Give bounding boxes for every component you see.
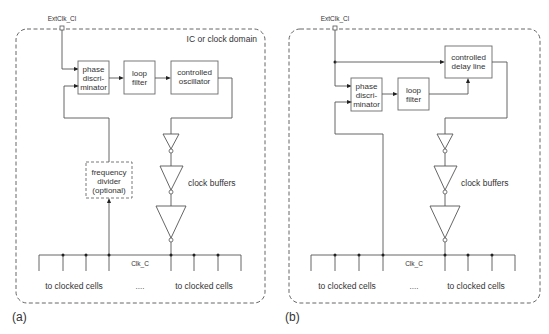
arrow-icon (166, 76, 171, 80)
arrow-icon (393, 92, 398, 96)
buffer-2-icon (434, 166, 457, 190)
caption-a: (a) (12, 310, 27, 324)
loop-filter-block: loop filter (124, 61, 155, 94)
bus-label: Clk_C (405, 260, 423, 268)
svg-text:loop: loop (406, 86, 422, 95)
svg-text:filter: filter (406, 95, 421, 104)
panel-a: IC or clock domain ExtClk_Cl phase discr… (12, 15, 265, 324)
clock-buffer-chain (430, 134, 460, 255)
svg-text:delay line: delay line (452, 62, 486, 71)
input-pin-label: ExtClk_Cl (321, 15, 350, 23)
svg-text:discri-: discri- (83, 74, 105, 83)
controlled-delay-line-block: controlled delay line (445, 46, 492, 78)
clock-buffer-chain (156, 134, 186, 255)
svg-text:controlled: controlled (177, 68, 212, 77)
clock-distribution-diagram: IC or clock domain ExtClk_Cl phase discr… (0, 0, 549, 334)
wire-feedback (64, 86, 109, 162)
controlled-oscillator-block: controlled oscillator (171, 61, 218, 94)
svg-text:frequency: frequency (91, 168, 126, 177)
wire-extclk (62, 30, 76, 69)
cells-right-label: to clocked cells (175, 281, 233, 291)
panel-b: ExtClk_Cl controlled delay line phase di… (285, 15, 540, 324)
arrow-icon (107, 198, 111, 203)
input-pin-icon (60, 26, 64, 30)
input-pin-label: ExtClk_Cl (48, 15, 77, 23)
loop-filter-block: loop filter (398, 78, 429, 110)
buffer-3-icon (156, 206, 186, 238)
cells-left-label: to clocked cells (318, 281, 376, 291)
svg-text:controlled: controlled (451, 53, 486, 62)
buffer-1-icon (437, 134, 453, 149)
frequency-divider-block: frequency divider (optional) (86, 162, 132, 198)
svg-text:divider: divider (97, 177, 121, 186)
wire-feedback (335, 102, 383, 255)
buffer-2-icon (160, 166, 183, 190)
arrow-icon (466, 78, 470, 83)
svg-text:oscillator: oscillator (179, 77, 211, 86)
clock-buffers-label: clock buffers (461, 178, 509, 188)
input-pin-icon (333, 26, 337, 30)
arrow-icon (119, 76, 124, 80)
wire-extclk (335, 30, 349, 86)
arrow-icon (440, 60, 445, 64)
svg-text:minator: minator (353, 100, 380, 109)
svg-text:discri-: discri- (356, 91, 378, 100)
ellipsis-label: .... (410, 282, 419, 291)
clock-buffers-label: clock buffers (188, 178, 236, 188)
svg-text:phase: phase (83, 65, 105, 74)
bus-label: Clk_C (131, 260, 149, 268)
domain-label: IC or clock domain (187, 34, 258, 44)
wire-filter-to-delay (429, 81, 468, 94)
phase-discriminator-block: phase discri- minator (351, 78, 382, 111)
cells-right-label: to clocked cells (447, 281, 505, 291)
buffer-3-icon (430, 206, 460, 238)
cells-left-label: to clocked cells (45, 281, 103, 291)
caption-b: (b) (285, 310, 300, 324)
buffer-1-icon (163, 134, 179, 149)
phase-discriminator-block: phase discri- minator (78, 61, 109, 94)
ellipsis-label: .... (136, 282, 145, 291)
svg-text:minator: minator (80, 83, 107, 92)
svg-text:(optional): (optional) (92, 186, 126, 195)
svg-text:phase: phase (356, 82, 378, 91)
svg-text:loop: loop (132, 69, 148, 78)
svg-text:filter: filter (132, 78, 147, 87)
